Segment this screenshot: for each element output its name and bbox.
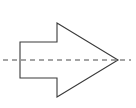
arrow-diagram	[0, 0, 136, 108]
diagram-canvas	[0, 0, 136, 108]
